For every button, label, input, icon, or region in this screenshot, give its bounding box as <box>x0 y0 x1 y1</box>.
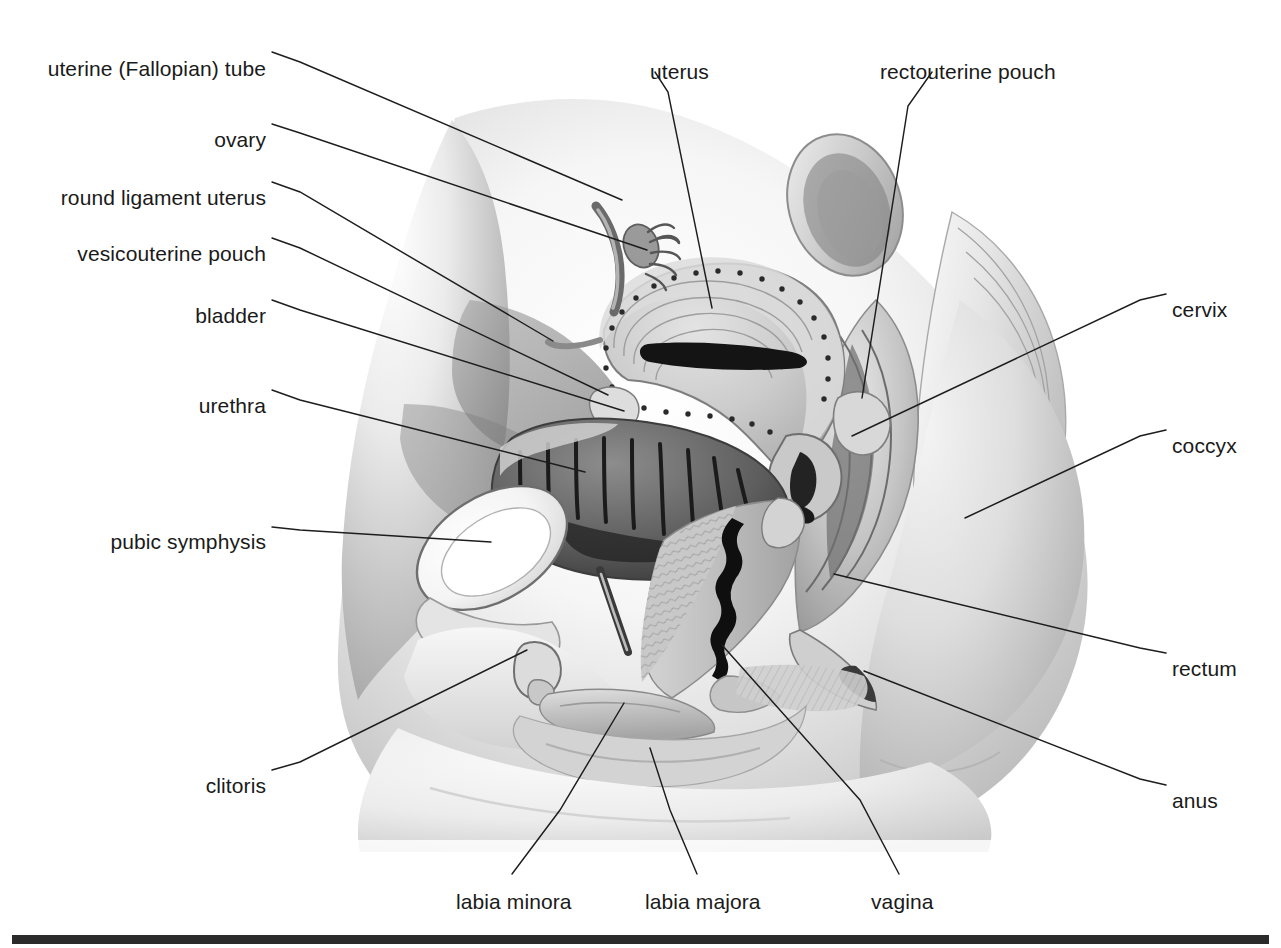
label-labia-minora: labia minora <box>456 890 572 914</box>
label-bladder: bladder <box>195 304 266 328</box>
footer-rule <box>12 935 1269 944</box>
label-uterine-tube: uterine (Fallopian) tube <box>48 57 266 81</box>
label-clitoris: clitoris <box>206 774 266 798</box>
label-pubic-symphysis: pubic symphysis <box>110 530 266 554</box>
label-labia-majora: labia majora <box>645 890 761 914</box>
label-urethra: urethra <box>199 394 266 418</box>
label-uterus: uterus <box>650 60 709 84</box>
rectouterine-pouch <box>834 392 891 455</box>
label-vagina: vagina <box>871 890 933 914</box>
illustration-body <box>0 99 1281 930</box>
label-coccyx: coccyx <box>1172 434 1237 458</box>
label-cervix: cervix <box>1172 298 1227 322</box>
label-round-ligament: round ligament uterus <box>61 186 266 210</box>
label-vesicouterine-pouch: vesicouterine pouch <box>77 242 266 266</box>
label-rectum: rectum <box>1172 657 1237 681</box>
anatomy-illustration <box>0 0 1281 948</box>
label-anus: anus <box>1172 789 1218 813</box>
anatomy-figure: uterine (Fallopian) tubeovaryround ligam… <box>0 0 1281 948</box>
label-ovary: ovary <box>214 128 266 152</box>
label-rectouterine-pouch: rectouterine pouch <box>880 60 1056 84</box>
